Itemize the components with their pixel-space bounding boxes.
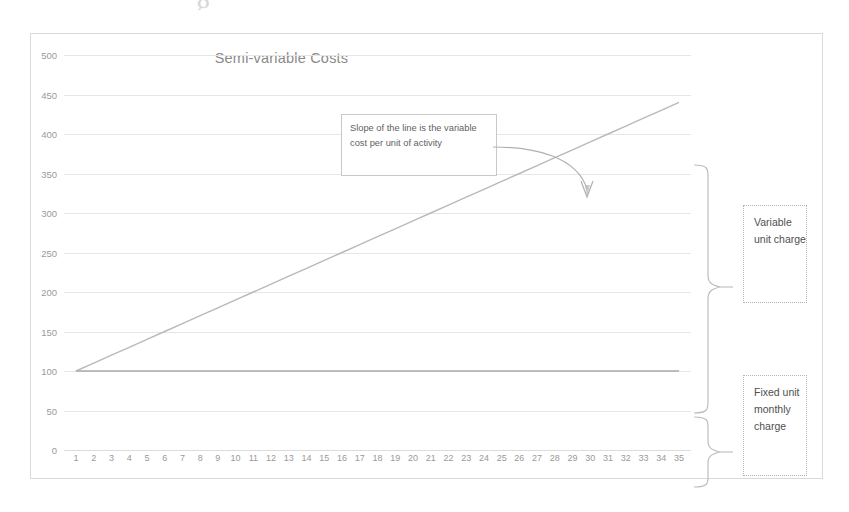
x-axis-tick-label: 27 <box>532 453 542 463</box>
x-axis-tick-label: 16 <box>337 453 347 463</box>
x-axis-tick-label: 6 <box>162 453 167 463</box>
y-axis-tick-label: 400 <box>41 129 57 140</box>
x-axis-tick-label: 19 <box>390 453 400 463</box>
x-axis-tick-label: 21 <box>426 453 436 463</box>
callout-text: Slope of the line is the variable cost p… <box>350 123 477 148</box>
x-axis-tick-label: 20 <box>408 453 418 463</box>
x-axis-tick-label: 2 <box>91 453 96 463</box>
x-axis-tick-label: 11 <box>249 453 258 463</box>
x-axis: 1234567891011121314151617181920212223242… <box>64 453 691 471</box>
y-axis-tick-label: 0 <box>52 445 57 456</box>
x-axis-tick-label: 35 <box>674 453 684 463</box>
x-axis-tick-label: 10 <box>231 453 241 463</box>
x-axis-tick-label: 4 <box>127 453 132 463</box>
x-axis-tick-label: 3 <box>109 453 114 463</box>
callout-annotation: Slope of the line is the variable cost p… <box>341 114 497 176</box>
y-axis-tick-label: 350 <box>41 168 57 179</box>
x-axis-tick-label: 32 <box>621 453 631 463</box>
x-axis-tick-label: 28 <box>550 453 560 463</box>
x-axis-tick-label: 8 <box>198 453 203 463</box>
x-axis-tick-label: 18 <box>372 453 382 463</box>
x-axis-tick-label: 9 <box>215 453 220 463</box>
x-axis-tick-label: 17 <box>355 453 365 463</box>
x-axis-tick-label: 12 <box>266 453 276 463</box>
fixed-unit-monthly-charge-label: Fixed unit monthly charge <box>743 375 807 476</box>
y-axis-tick-label: 200 <box>41 287 57 298</box>
x-axis-tick-label: 25 <box>497 453 507 463</box>
x-axis-tick-label: 31 <box>603 453 613 463</box>
chart-container: Semi-variable Costs 05010015020025030035… <box>30 33 823 479</box>
y-axis-tick-label: 150 <box>41 326 57 337</box>
x-axis-tick-label: 29 <box>568 453 578 463</box>
x-axis-tick-label: 26 <box>514 453 524 463</box>
x-axis-tick-label: 7 <box>180 453 185 463</box>
x-axis-tick-label: 24 <box>479 453 489 463</box>
variable-unit-charge-label: Variable unit charge <box>743 205 807 303</box>
y-axis-tick-label: 500 <box>41 50 57 61</box>
y-axis-tick-label: 250 <box>41 247 57 258</box>
variable-unit-charge-text: Variable unit charge <box>754 216 806 245</box>
gridline: 0 <box>64 450 691 451</box>
x-axis-tick-label: 1 <box>73 453 78 463</box>
y-axis-tick-label: 450 <box>41 89 57 100</box>
page-bleed-artifact: g <box>196 0 286 10</box>
x-axis-tick-label: 15 <box>319 453 329 463</box>
x-axis-tick-label: 14 <box>302 453 312 463</box>
x-axis-tick-label: 30 <box>585 453 595 463</box>
x-axis-tick-label: 33 <box>639 453 649 463</box>
x-axis-tick-label: 5 <box>144 453 149 463</box>
x-axis-tick-label: 13 <box>284 453 294 463</box>
x-axis-tick-label: 34 <box>656 453 666 463</box>
y-axis-tick-label: 50 <box>46 405 57 416</box>
fixed-unit-monthly-charge-text: Fixed unit monthly charge <box>754 386 800 432</box>
y-axis-tick-label: 300 <box>41 208 57 219</box>
y-axis-tick-label: 100 <box>41 366 57 377</box>
x-axis-tick-label: 23 <box>461 453 471 463</box>
x-axis-tick-label: 22 <box>443 453 453 463</box>
